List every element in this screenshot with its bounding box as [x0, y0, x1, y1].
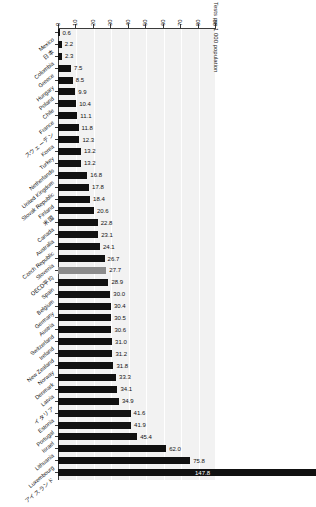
y-axis-tick	[55, 282, 58, 283]
bar-row: 26.7	[58, 254, 215, 264]
bar-row: 31.8	[58, 361, 215, 371]
bar	[58, 326, 111, 333]
bar-row: 41.6	[58, 409, 215, 419]
bar-value-label: 28.9	[111, 278, 123, 286]
y-axis-tick	[55, 294, 58, 295]
bar	[58, 386, 117, 393]
y-axis-tick	[55, 32, 58, 33]
bar-value-label: 13.2	[84, 147, 96, 155]
bar-row: 9.9	[58, 87, 215, 97]
y-axis-tick	[55, 341, 58, 342]
y-axis-tick	[55, 127, 58, 128]
bar-value-label: 16.8	[90, 171, 102, 179]
y-axis-tick	[55, 258, 58, 259]
bar-value-label: 20.6	[97, 207, 109, 215]
y-axis-tick	[55, 353, 58, 354]
bar	[58, 374, 116, 381]
bar-row: 17.8	[58, 183, 215, 193]
bar	[58, 207, 94, 214]
bar-value-label: 75.8	[193, 457, 205, 465]
bar-row: 2.2	[58, 40, 215, 50]
bar-row: 75.8	[58, 456, 215, 466]
bar-value-label: 31.2	[115, 350, 127, 358]
bar-value-label: 30.4	[114, 302, 126, 310]
bar-row: 11.8	[58, 123, 215, 133]
y-axis-tick	[55, 56, 58, 57]
bar-value-label: 12.3	[82, 136, 94, 144]
y-axis-tick	[55, 175, 58, 176]
y-axis-tick	[55, 317, 58, 318]
bar-row: 147.8	[58, 468, 215, 478]
bar-value-label: 23.1	[101, 231, 113, 239]
bar-row: 41.9	[58, 421, 215, 431]
bar-value-label: 11.1	[80, 112, 91, 120]
bar-row: 16.8	[58, 171, 215, 181]
bar	[58, 255, 105, 262]
bar-value-label: 31.0	[115, 338, 127, 346]
bar-value-label: 26.7	[108, 255, 120, 263]
bar	[58, 314, 111, 321]
bar-row: 31.0	[58, 337, 215, 347]
y-axis-tick	[55, 199, 58, 200]
bar-value-label: 11.8	[82, 124, 93, 132]
bar	[58, 410, 131, 417]
bar-row: 30.4	[58, 302, 215, 312]
bar-row: 62.0	[58, 444, 215, 454]
bar	[58, 219, 98, 226]
y-axis-tick	[55, 80, 58, 81]
bar	[58, 41, 62, 48]
bar-value-label: 45.4	[140, 433, 152, 441]
y-axis-tick	[55, 151, 58, 152]
bar	[58, 124, 79, 131]
bar-row: 18.4	[58, 195, 215, 205]
bar-value-label: 22.8	[101, 219, 113, 227]
bar	[58, 422, 131, 429]
bar-row: 30.5	[58, 313, 215, 323]
bar	[58, 362, 113, 369]
bar-value-label: 9.9	[78, 88, 86, 96]
y-axis-tick	[55, 377, 58, 378]
bar-value-label: 10.4	[79, 100, 91, 108]
bar-row: 31.2	[58, 349, 215, 359]
bar	[58, 196, 90, 203]
bar-row: 30.6	[58, 325, 215, 335]
bar-value-label: 27.7	[109, 266, 121, 274]
bar-value-label: 17.8	[92, 183, 104, 191]
bar-value-label: 30.6	[114, 326, 126, 334]
x-axis-tick-label: 80	[195, 19, 201, 26]
bar	[58, 53, 62, 60]
y-axis-tick	[55, 460, 58, 461]
bar-value-label: 18.4	[93, 195, 105, 203]
y-axis-tick	[55, 91, 58, 92]
bar-row: 13.2	[58, 147, 215, 157]
bar	[58, 433, 137, 440]
bar-row: 11.1	[58, 111, 215, 121]
bar	[58, 100, 76, 107]
y-axis-tick	[55, 448, 58, 449]
bar-row: 7.5	[58, 64, 215, 74]
bar-value-label: 24.1	[103, 243, 115, 251]
bar-value-label: 13.2	[84, 159, 96, 167]
y-axis-tick	[55, 246, 58, 247]
bar-row: 24.1	[58, 242, 215, 252]
bar-value-label: 31.8	[116, 362, 128, 370]
bar-row: 34.1	[58, 385, 215, 395]
x-axis-tick-label: 40	[125, 19, 131, 26]
y-axis-tick	[55, 389, 58, 390]
bar	[58, 184, 89, 191]
bar-value-label: 147.8	[195, 469, 210, 477]
bar	[58, 267, 106, 274]
bar	[58, 398, 119, 405]
bar	[58, 279, 108, 286]
bar	[58, 77, 73, 84]
bar-value-label: 0.6	[63, 29, 71, 37]
y-axis-tick	[55, 210, 58, 211]
bar-row: 13.2	[58, 159, 215, 169]
bar	[58, 65, 71, 72]
bar	[58, 88, 75, 95]
x-axis-tick-label: 50	[142, 19, 148, 26]
y-axis-tick	[55, 365, 58, 366]
bar	[58, 160, 81, 167]
bar-value-label: 30.0	[113, 290, 125, 298]
